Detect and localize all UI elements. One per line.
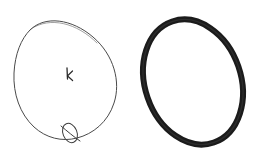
center-mark-stem	[67, 68, 68, 79]
image-canvas: Two ring shapes side by side on a plain …	[0, 0, 259, 166]
rings-illustration	[0, 0, 259, 166]
